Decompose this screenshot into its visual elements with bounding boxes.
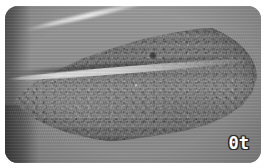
leaf-grain-overlay	[9, 16, 257, 144]
leaf-specimen	[5, 14, 261, 156]
screenshot-canvas: 0t	[0, 0, 266, 168]
pale-fleck	[134, 84, 138, 87]
blemish-spot	[149, 52, 157, 60]
specimen-photo-frame: 0t	[5, 6, 261, 163]
corner-label: 0t	[229, 135, 249, 152]
leaf-blade	[9, 16, 257, 144]
